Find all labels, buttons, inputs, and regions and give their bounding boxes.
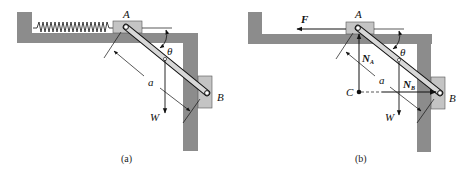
label-theta: θ [167, 45, 173, 57]
label-weight-b: W [385, 111, 395, 123]
caption-b: (b) [355, 153, 367, 165]
label-point-b-b: B [449, 92, 456, 104]
label-point-a: A [122, 8, 130, 20]
instant-center-c [357, 90, 362, 95]
spring [33, 22, 113, 32]
label-normal-b: NB [402, 78, 415, 91]
label-point-c: C [346, 86, 354, 98]
label-force: F [300, 13, 309, 25]
label-weight: W [150, 111, 160, 123]
panel-b: F A B C θ a W NA NB (b) [248, 8, 456, 165]
label-length-b: a [379, 74, 385, 86]
caption-a: (a) [121, 153, 132, 165]
label-theta-b: θ [400, 46, 406, 58]
label-point-a-b: A [354, 8, 362, 20]
label-point-b: B [217, 91, 224, 103]
label-normal-a: NA [361, 52, 374, 65]
statics-diagram: A B θ a W (a) [0, 0, 469, 176]
wall-a [17, 12, 198, 151]
panel-a: A B θ a W (a) [17, 8, 224, 165]
label-length: a [148, 76, 154, 88]
